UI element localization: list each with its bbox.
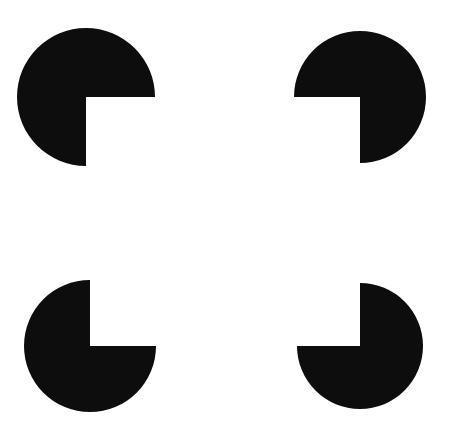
kanizsa-figure-canvas: [0, 0, 450, 440]
kanizsa-figure-svg: [0, 0, 450, 440]
